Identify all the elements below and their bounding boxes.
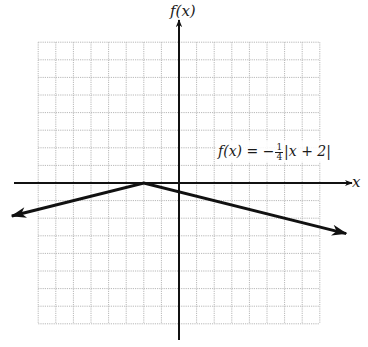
y-axis-label: f(x) xyxy=(170,2,196,20)
function-graph xyxy=(0,0,368,347)
equation-suffix: |x + 2| xyxy=(284,143,331,159)
equation-prefix: f(x) = − xyxy=(218,143,274,159)
fraction-numerator: 1 xyxy=(275,143,283,153)
function-equation-label: f(x) = −14|x + 2| xyxy=(216,141,333,162)
fraction-denominator: 4 xyxy=(275,153,283,162)
x-axis-label: x xyxy=(352,173,360,191)
axes xyxy=(14,20,352,340)
equation-fraction: 14 xyxy=(275,143,283,162)
